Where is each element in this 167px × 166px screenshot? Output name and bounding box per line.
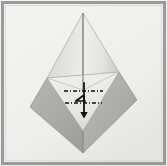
origami-diagram <box>0 0 167 166</box>
origami-figure-frame: Origami fold step diagram Shaded paper m… <box>0 0 167 166</box>
